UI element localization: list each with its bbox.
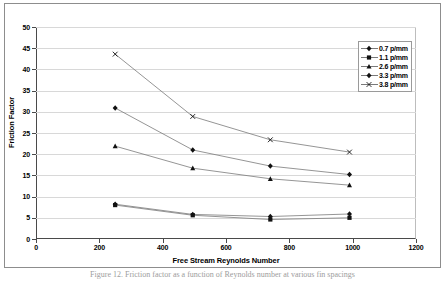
series-5 — [113, 52, 352, 155]
series-1 — [113, 202, 352, 220]
figure-caption: Figure 12. Friction factor as a function… — [4, 270, 441, 283]
x-tick-label: 1000 — [333, 244, 373, 251]
diamond-marker-icon — [361, 71, 378, 80]
legend-label: 1.1 p/mm — [378, 53, 408, 62]
x-tick-label: 0 — [16, 244, 56, 251]
chart-legend: 0.7 p/mm1.1 p/mm2.6 p/mm3.3 p/mm3.8 p/mm — [358, 41, 412, 92]
legend-label: 2.6 p/mm — [378, 62, 408, 71]
diamond-marker-icon — [361, 44, 378, 53]
legend-label: 0.7 p/mm — [378, 44, 408, 53]
legend-item-2: 1.1 p/mm — [361, 53, 408, 62]
x-tick-label: 1200 — [396, 244, 436, 251]
legend-label: 3.8 p/mm — [378, 80, 408, 89]
x-tick-mark — [36, 239, 37, 243]
y-tick-label: 5 — [2, 214, 30, 221]
y-axis-title: Friction Factor — [7, 73, 16, 173]
x-tick-mark — [416, 239, 417, 243]
legend-item-5: 3.8 p/mm — [361, 80, 408, 89]
series-4 — [113, 105, 352, 177]
friction-factor-chart: 05101520253035404550 0200400600800100012… — [0, 0, 445, 285]
x-tick-mark — [289, 239, 290, 243]
x-tick-label: 200 — [79, 244, 119, 251]
x-axis-title: Free Stream Reynolds Number — [36, 256, 416, 265]
x-tick-label: 600 — [206, 244, 246, 251]
series-2 — [113, 203, 352, 222]
y-tick-label: 45 — [2, 45, 30, 52]
x-tick-mark — [99, 239, 100, 243]
y-tick-label: 15 — [2, 172, 30, 179]
y-tick-label: 10 — [2, 193, 30, 200]
legend-item-4: 3.3 p/mm — [361, 71, 408, 80]
y-tick-label: 0 — [2, 236, 30, 243]
figure-page: 05101520253035404550 0200400600800100012… — [0, 0, 445, 285]
legend-item-1: 0.7 p/mm — [361, 44, 408, 53]
series-3 — [113, 144, 352, 188]
x-tick-mark — [353, 239, 354, 243]
x-tick-mark — [226, 239, 227, 243]
x-tick-mark — [163, 239, 164, 243]
triangle-marker-icon — [361, 62, 378, 71]
x-tick-label: 800 — [269, 244, 309, 251]
legend-label: 3.3 p/mm — [378, 71, 408, 80]
legend-item-3: 2.6 p/mm — [361, 62, 408, 71]
y-tick-label: 50 — [2, 24, 30, 31]
square-marker-icon — [361, 53, 378, 62]
x-marker-icon — [361, 80, 378, 89]
x-tick-label: 400 — [143, 244, 183, 251]
